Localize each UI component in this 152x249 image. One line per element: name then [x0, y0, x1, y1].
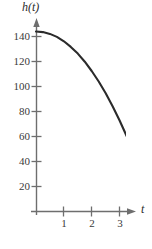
- y-tick-label-20: 20: [0, 181, 30, 192]
- y-axis-arrowhead: [33, 18, 39, 27]
- x-axis-arrowhead: [127, 208, 136, 214]
- height-curve: [36, 32, 127, 137]
- x-tick-label-3: 3: [112, 218, 128, 229]
- x-tick-label-2: 2: [84, 218, 100, 229]
- x-tick-label-1: 1: [56, 218, 72, 229]
- x-axis-label: t: [141, 203, 144, 215]
- y-tick-label-80: 80: [0, 106, 30, 117]
- y-axis-label: h(t): [22, 1, 39, 13]
- height-vs-time-chart: 140 120 100 80 60 40 20 1 2 3 h(t) t: [0, 0, 152, 249]
- y-tick-label-140: 140: [0, 31, 30, 42]
- y-tick-label-120: 120: [0, 56, 30, 67]
- y-tick-label-40: 40: [0, 156, 30, 167]
- y-tick-label-60: 60: [0, 131, 30, 142]
- y-tick-label-100: 100: [0, 81, 30, 92]
